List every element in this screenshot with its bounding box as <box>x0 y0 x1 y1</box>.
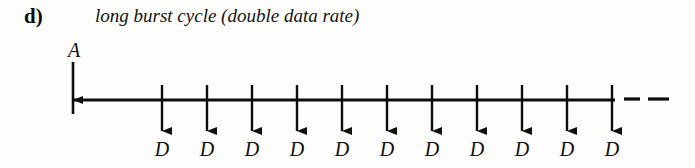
data-arrow-group <box>162 85 612 131</box>
figure-panel: d) long burst cycle (double data rate) A… <box>0 0 695 168</box>
data-signal-label-10: D <box>554 139 580 159</box>
data-signal-label-6: D <box>374 139 400 159</box>
data-signal-label-3: D <box>239 139 265 159</box>
data-signal-label-5: D <box>329 139 355 159</box>
data-signal-label-7: D <box>419 139 445 159</box>
data-signal-label-9: D <box>509 139 535 159</box>
data-signal-label-2: D <box>194 139 220 159</box>
data-signal-label-11: D <box>599 139 625 159</box>
data-signal-label-4: D <box>284 139 310 159</box>
data-signal-label-1: D <box>149 139 175 159</box>
data-signal-label-8: D <box>464 139 490 159</box>
address-signal-label: A <box>62 40 86 60</box>
